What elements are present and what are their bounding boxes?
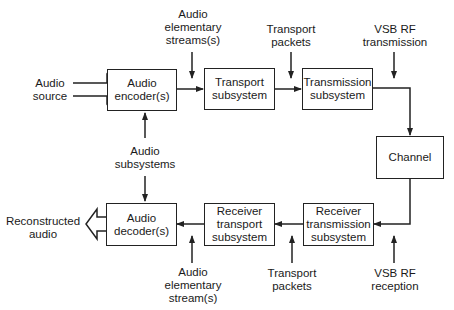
audio-subsystems-label: Audio subsystems (110, 145, 180, 171)
vsb-rf-reception-label: VSB RF reception (364, 267, 426, 293)
receiver-transmission-subsystem-block: Receiver transmission subsystem (303, 203, 374, 246)
audio-elementary-streams-top-label: Audio elementary streams(s) (162, 8, 224, 47)
channel-block: Channel (376, 136, 444, 179)
vsb-rf-transmission-label: VSB RF transmission (360, 23, 430, 49)
transport-packets-top-label: Transport packets (262, 23, 320, 49)
receiver-transport-subsystem-block: Receiver transport subsystem (204, 203, 275, 246)
audio-decoder-block: Audio decoder(s) (106, 203, 177, 246)
audio-encoder-block: Audio encoder(s) (107, 69, 177, 111)
audio-source-label: Audio source (28, 77, 72, 103)
transmission-subsystem-block: Transmission subsystem (302, 68, 373, 110)
reconstructed-audio-label: Reconstructed audio (4, 215, 82, 241)
audio-elementary-stream-bottom-label: Audio elementary stream(s) (162, 266, 224, 305)
transport-packets-bottom-label: Transport packets (262, 267, 322, 293)
transport-subsystem-block: Transport subsystem (204, 68, 275, 110)
